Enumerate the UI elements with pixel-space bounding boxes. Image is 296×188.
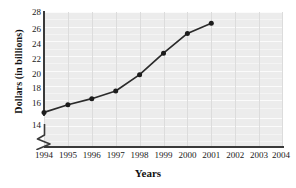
gridline-x-1996-lower — [92, 115, 93, 147]
gridline-x-2003-lower — [259, 115, 260, 147]
x-axis-line — [44, 146, 284, 148]
y-axis-line — [43, 11, 45, 116]
gridline-x-2004 — [282, 12, 283, 115]
gridline-x-2000 — [187, 12, 188, 115]
gridline-x-2001-lower — [211, 115, 212, 147]
x-axis-title: Years — [0, 167, 296, 179]
gridline-x-1999-lower — [164, 115, 165, 147]
gridline-x-1995 — [68, 12, 69, 115]
gridline-x-1997 — [116, 12, 117, 115]
gridline-x-2004-lower — [282, 115, 283, 147]
plot-area — [44, 12, 283, 115]
gridline-x-1999 — [164, 12, 165, 115]
gridline-x-1998 — [140, 12, 141, 115]
gridline-x-1997-lower — [116, 115, 117, 147]
gridline-x-2002 — [235, 12, 236, 115]
x-tick-label-2004: 2004 — [266, 150, 296, 160]
gridline-x-1995-lower — [68, 115, 69, 147]
gridline-x-1996 — [92, 12, 93, 115]
gridline-x-2002-lower — [235, 115, 236, 147]
y-axis-title: Dollars (in billions) — [13, 7, 24, 137]
gridline-x-2000-lower — [187, 115, 188, 147]
plot-area-below-break — [44, 115, 283, 147]
line-chart: 28 26 24 22 20 18 16 14 1994 1995 1996 1… — [0, 0, 296, 188]
gridline-x-2001 — [211, 12, 212, 115]
gridline-x-2003 — [259, 12, 260, 115]
gridline-x-1998-lower — [140, 115, 141, 147]
